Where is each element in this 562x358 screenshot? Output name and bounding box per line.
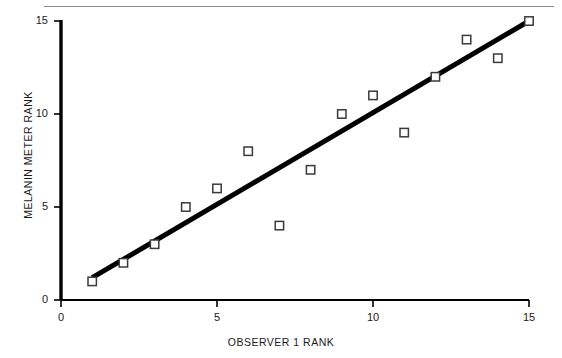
data-point-marker	[275, 221, 283, 229]
data-point-marker	[494, 54, 502, 62]
trend-line	[92, 21, 529, 278]
data-point-marker	[244, 147, 252, 155]
data-point-marker	[525, 17, 533, 25]
x-tick-label: 5	[205, 311, 229, 323]
data-point-marker	[306, 166, 314, 174]
y-axis-title: MELANIN METER RANK	[22, 91, 34, 218]
x-tick-label: 0	[49, 311, 73, 323]
figure-container: 051015 051015 MELANIN METER RANK OBSERVE…	[0, 0, 562, 358]
data-point-marker	[88, 277, 96, 285]
y-axis-title-wrapper: MELANIN METER RANK	[18, 65, 36, 245]
data-point-marker	[369, 91, 377, 99]
data-point-marker	[119, 259, 127, 267]
data-point-marker	[182, 203, 190, 211]
x-tick-label: 15	[517, 311, 541, 323]
scatter-plot-canvas	[0, 0, 562, 358]
data-point-marker	[462, 35, 470, 43]
data-point-marker	[431, 73, 439, 81]
data-point-marker	[338, 110, 346, 118]
x-axis-title: OBSERVER 1 RANK	[0, 336, 562, 348]
data-point-marker	[213, 184, 221, 192]
data-point-marker	[400, 128, 408, 136]
regression-line	[92, 21, 529, 278]
y-tick-label: 0	[26, 293, 48, 305]
data-point-marker	[150, 240, 158, 248]
x-tick-label: 10	[361, 311, 385, 323]
y-tick-label: 15	[26, 14, 48, 26]
